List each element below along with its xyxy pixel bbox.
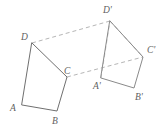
vertex-label-b: B xyxy=(52,116,58,126)
vertex-label-b-prime: B' xyxy=(135,92,143,102)
vertex-label-d: D xyxy=(21,32,28,42)
connector-C-Cprime xyxy=(67,57,143,77)
vertex-label-c-prime: C' xyxy=(147,45,155,55)
connector-D-Dprime xyxy=(32,21,110,43)
image-quadrilateral xyxy=(101,21,143,88)
geometry-canvas xyxy=(0,0,166,131)
preimage-quadrilateral xyxy=(22,43,67,111)
vertex-label-a-prime: A' xyxy=(93,81,101,91)
vertex-label-a: A xyxy=(10,103,16,113)
vertex-label-c: C xyxy=(64,66,70,76)
geometry-figure: A B C D A' B' C' D' xyxy=(0,0,166,131)
vertex-label-d-prime: D' xyxy=(103,5,112,15)
